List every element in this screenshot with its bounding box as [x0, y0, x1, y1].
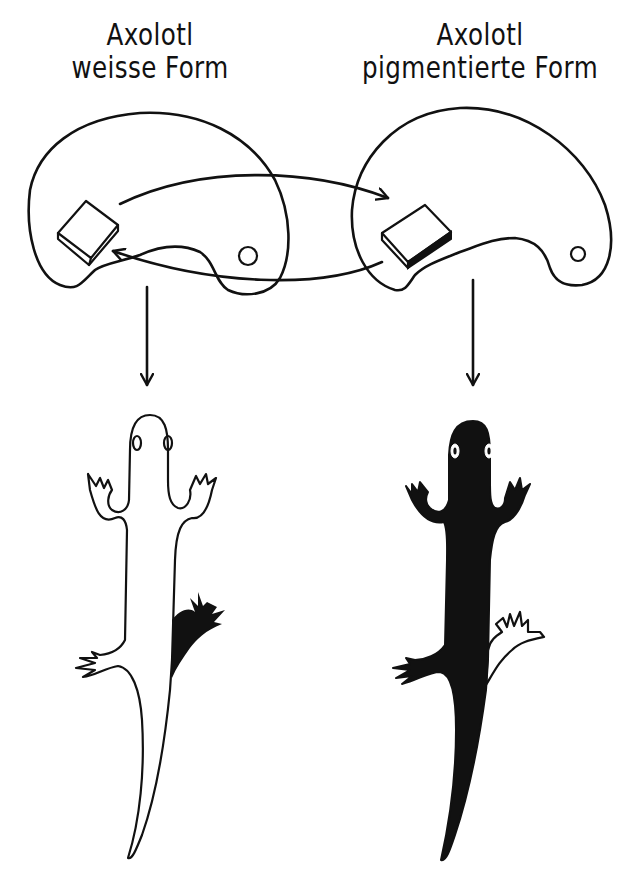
- embryo-white: [29, 113, 289, 294]
- eye-left-axolotl-white: [133, 436, 141, 450]
- grafted-limb-black: [172, 592, 225, 678]
- eye-spot-right: [571, 247, 585, 261]
- embryo-pigmented: [352, 108, 611, 290]
- arrow-left-to-right: [120, 175, 388, 204]
- transplant-diagram: [0, 0, 632, 879]
- axolotl-white: [76, 415, 225, 858]
- axolotl-pigmented: [393, 421, 544, 860]
- pupil-left: [453, 448, 456, 455]
- eye-spot-left: [239, 247, 257, 265]
- grafted-limb-white: [486, 612, 544, 685]
- pupil-right: [487, 448, 490, 455]
- graft-block-left: [58, 201, 118, 265]
